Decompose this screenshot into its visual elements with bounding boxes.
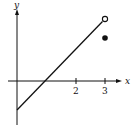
graph: y x 2 3	[0, 0, 136, 127]
y-axis-label: y	[13, 0, 20, 10]
x-tick-label-3: 3	[102, 86, 108, 96]
function-segment	[17, 22, 103, 111]
x-axis-label: x	[125, 76, 130, 86]
x-tick-label-2: 2	[73, 86, 79, 96]
filled-point	[102, 35, 108, 41]
x-axis-arrow-icon	[116, 79, 122, 83]
open-circle-endpoint	[102, 16, 107, 21]
